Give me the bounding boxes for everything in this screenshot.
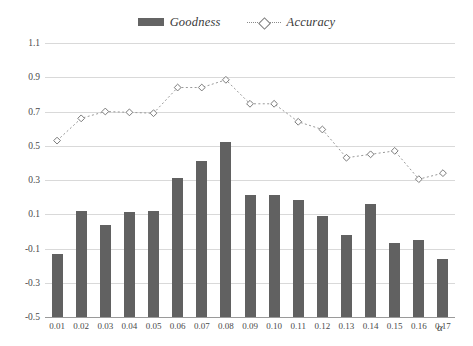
- y-axis-tick-label: 1.1: [6, 38, 40, 48]
- accuracy-polyline: [57, 80, 443, 179]
- diamond-marker-icon: [198, 84, 205, 91]
- y-axis-tick-label: 0.9: [6, 72, 40, 82]
- diamond-marker-icon: [78, 115, 85, 122]
- legend-bar-swatch-icon: [138, 18, 164, 26]
- legend-item-goodness: Goodness: [138, 15, 221, 30]
- y-axis-tick-label: -0.3: [6, 278, 40, 288]
- legend-label-goodness: Goodness: [170, 15, 221, 30]
- diamond-marker-icon: [102, 108, 109, 115]
- diamond-marker-icon: [126, 109, 133, 116]
- diamond-marker-icon: [367, 151, 374, 158]
- chart-legend: Goodness Accuracy: [0, 12, 473, 32]
- diamond-marker-icon: [319, 126, 326, 133]
- diamond-marker-icon: [343, 154, 350, 161]
- chart-container: Goodness Accuracy 1.10.90.70.50.30.1-0.1…: [0, 0, 473, 346]
- legend-label-accuracy: Accuracy: [287, 15, 336, 30]
- x-axis-tick-labels: 0.010.020.030.040.050.060.070.080.090.10…: [45, 317, 455, 337]
- diamond-marker-icon: [150, 110, 157, 117]
- y-axis-tick-labels: 1.10.90.70.50.30.1-0.1-0.3-0.5: [0, 43, 40, 317]
- y-axis-tick-label: 0.7: [6, 107, 40, 117]
- diamond-marker-icon: [295, 118, 302, 125]
- x-axis-title: α: [437, 321, 443, 333]
- y-axis-tick-label: -0.5: [6, 312, 40, 322]
- legend-line-marker-icon: [247, 18, 281, 27]
- accuracy-markers: [54, 76, 447, 182]
- y-axis-tick-label: -0.1: [6, 244, 40, 254]
- line-series-accuracy: [45, 43, 455, 317]
- diamond-marker-icon: [440, 170, 447, 177]
- plot-area: [45, 43, 455, 317]
- y-axis-tick-label: 0.1: [6, 209, 40, 219]
- y-axis-tick-label: 0.3: [6, 175, 40, 185]
- legend-item-accuracy: Accuracy: [247, 15, 336, 30]
- y-axis-tick-label: 0.5: [6, 141, 40, 151]
- diamond-marker-icon: [54, 137, 61, 144]
- diamond-marker-icon: [258, 17, 271, 30]
